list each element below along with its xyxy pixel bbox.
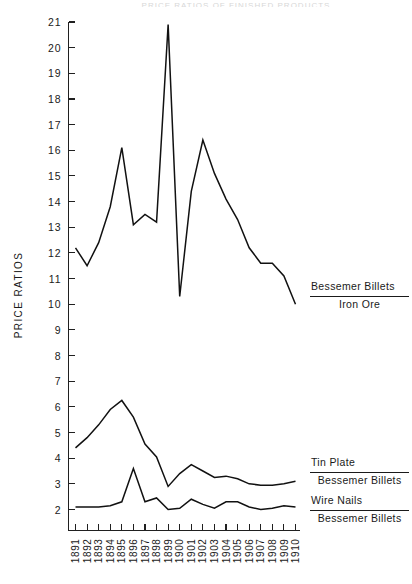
x-tick-label-1897: 1897 [140, 539, 151, 564]
x-tick-label-1893: 1893 [93, 539, 104, 564]
x-tick-label-1902: 1902 [197, 539, 208, 564]
y-axis-ticks [69, 22, 76, 510]
x-tick-label-1903: 1903 [209, 539, 220, 564]
x-tick-label-1906: 1906 [244, 539, 255, 564]
y-tick-label-4: 4 [55, 452, 62, 464]
y-tick-label-20: 20 [48, 42, 61, 54]
legend-denominator-tin-plate-bessemer: Bessemer Billets [318, 474, 402, 486]
x-tick-label-1892: 1892 [82, 539, 93, 564]
y-tick-label-2: 2 [55, 504, 62, 516]
y-tick-label-7: 7 [55, 375, 62, 387]
x-tick-label-1908: 1908 [267, 539, 278, 564]
y-tick-label-8: 8 [55, 350, 62, 362]
x-tick-label-1896: 1896 [128, 539, 139, 564]
series-line-1 [76, 400, 296, 486]
y-tick-label-16: 16 [48, 144, 61, 156]
y-tick-label-10: 10 [48, 298, 61, 310]
y-tick-label-15: 15 [48, 170, 61, 182]
series-line-2 [76, 468, 296, 509]
y-tick-label-18: 18 [48, 93, 61, 105]
legend-denominator-wire-nails-bessemer: Bessemer Billets [318, 512, 402, 524]
x-tick-label-1895: 1895 [116, 539, 127, 564]
y-tick-label-14: 14 [48, 196, 61, 208]
x-axis-tick-labels: 1891189218931894189518961897189818991900… [70, 539, 301, 564]
y-tick-label-6: 6 [55, 401, 62, 413]
y-tick-label-21: 21 [48, 16, 61, 28]
x-tick-label-1901: 1901 [186, 539, 197, 564]
y-tick-label-12: 12 [48, 247, 61, 259]
legend-denominator-bessemer-iron-ore: Iron Ore [339, 298, 380, 310]
x-tick-label-1894: 1894 [105, 539, 116, 564]
x-tick-label-1907: 1907 [255, 539, 266, 564]
legend-numerator-tin-plate-bessemer: Tin Plate [311, 456, 355, 468]
legend-numerator-wire-nails-bessemer: Wire Nails [311, 494, 362, 506]
y-tick-label-9: 9 [55, 324, 62, 336]
y-axis-title: PRICE RATIOS [13, 252, 24, 339]
legend-numerator-bessemer-iron-ore: Bessemer Billets [311, 280, 395, 292]
x-tick-label-1910: 1910 [290, 539, 301, 564]
legend-group: Bessemer BilletsIron OreTin PlateBesseme… [310, 280, 409, 524]
x-tick-label-1900: 1900 [174, 539, 185, 564]
series-line-0 [76, 25, 296, 305]
x-tick-label-1899: 1899 [163, 539, 174, 564]
y-tick-label-17: 17 [48, 119, 61, 131]
chart-container: PRICE RATIOS OF FINISHED PRODUCTS 212019… [0, 0, 412, 584]
x-axis-group: 1891189218931894189518961897189818991900… [69, 524, 302, 564]
x-axis-ticks [76, 524, 296, 531]
x-tick-label-1909: 1909 [279, 539, 290, 564]
y-axis-tick-labels: 21201918171615141312111098765432 [48, 16, 61, 516]
x-tick-label-1891: 1891 [70, 539, 81, 564]
y-tick-label-5: 5 [55, 427, 62, 439]
x-tick-label-1904: 1904 [221, 539, 232, 564]
x-tick-label-1905: 1905 [232, 539, 243, 564]
y-tick-label-3: 3 [55, 478, 62, 490]
y-axis-group: 21201918171615141312111098765432 [48, 16, 75, 531]
x-tick-label-1898: 1898 [151, 539, 162, 564]
price-ratios-line-chart: 21201918171615141312111098765432 1891189… [0, 0, 412, 584]
y-tick-label-19: 19 [48, 67, 61, 79]
data-series-group [76, 25, 296, 510]
y-tick-label-13: 13 [48, 221, 61, 233]
y-tick-label-11: 11 [49, 273, 62, 285]
